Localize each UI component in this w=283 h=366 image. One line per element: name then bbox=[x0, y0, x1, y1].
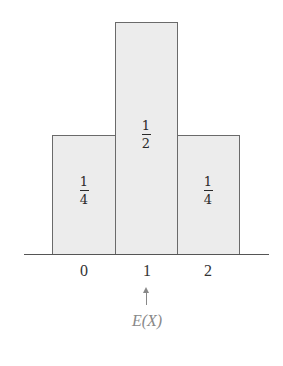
x-tick-2: 2 bbox=[198, 262, 218, 280]
x-tick-0: 0 bbox=[74, 262, 94, 280]
expected-value-label: E(X) bbox=[117, 312, 177, 330]
x-tick-1: 1 bbox=[137, 262, 157, 280]
fraction-bar bbox=[204, 190, 213, 191]
fraction-bar bbox=[80, 190, 89, 191]
bar-label-2: 1 4 bbox=[198, 175, 218, 206]
fraction-bar bbox=[142, 134, 151, 135]
annotation-arrow bbox=[146, 289, 147, 305]
bar-label-1: 1 2 bbox=[136, 119, 156, 150]
bar-label-0: 1 4 bbox=[74, 175, 94, 206]
x-axis-line bbox=[24, 254, 269, 255]
